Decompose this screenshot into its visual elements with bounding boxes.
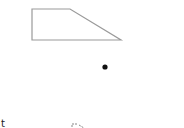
- partial-dashed-shape: [72, 124, 84, 128]
- point-dot: [102, 64, 107, 69]
- diagram-canvas: [0, 0, 184, 128]
- trapezoid-shape: [32, 9, 121, 40]
- partial-text-glyph: t: [1, 119, 5, 128]
